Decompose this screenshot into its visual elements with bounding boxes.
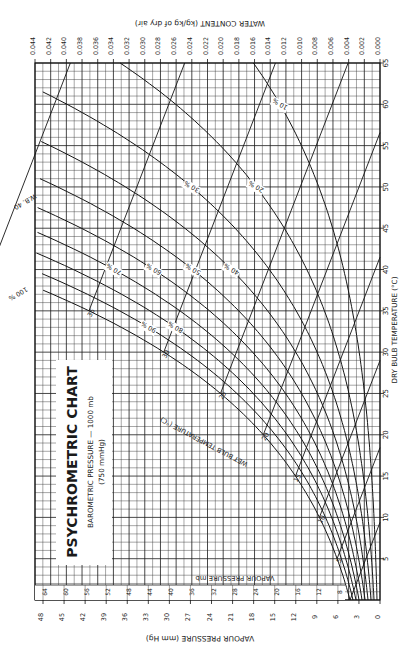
- water-content-tick-label: 0.028: [154, 37, 161, 55]
- water-content-axis-title: WATER CONTENT (kg/kg of dry air): [135, 19, 265, 28]
- rh-label: 40 %: [222, 262, 240, 277]
- water-content-tick-label: 0.004: [343, 37, 350, 55]
- dry-bulb-tick-label: 35: [382, 306, 390, 315]
- vapour-mmhg-tick-label: 36: [121, 613, 129, 621]
- water-content-tick-label: 0.006: [327, 37, 334, 55]
- vapour-mb-band-title: VAPOUR PRESSURE mb: [195, 574, 274, 582]
- vapour-mmhg-tick-label: 9: [311, 615, 319, 619]
- water-content-tick-label: 0.002: [358, 37, 365, 55]
- vapour-mb-tick-label: 16: [294, 588, 301, 596]
- vapour-mmhg-tick-label: 18: [248, 613, 256, 621]
- vapour-mb-tick-label: 28: [231, 588, 238, 596]
- water-content-tick-label: 0.024: [186, 37, 193, 55]
- vapour-mmhg-tick-label: 12: [290, 613, 298, 621]
- water-content-tick-label: 0.000: [374, 37, 381, 55]
- vapour-mb-tick-label: 48: [125, 588, 132, 596]
- vapour-mb-tick-label: 20: [273, 588, 280, 596]
- wet-bulb-line-20: [263, 133, 380, 435]
- dry-bulb-tick-label: 45: [382, 224, 390, 233]
- water-content-tick-label: 0.016: [249, 37, 256, 55]
- rh-label: 50 %: [184, 262, 202, 277]
- vapour-mb-tick-label: 40: [167, 588, 174, 596]
- dry-bulb-tick-label: 30: [382, 348, 390, 357]
- dry-bulb-tick-label: 55: [382, 141, 390, 150]
- dry-bulb-axis-title: DRY BULB TEMPERATURE (°C): [390, 276, 399, 383]
- vapour-mmhg-axis-title: VAPOUR PRESSURE (mm Hg): [146, 634, 254, 643]
- water-content-tick-label: 0.026: [170, 37, 177, 55]
- vapour-mb-tick-label: 64: [41, 588, 48, 596]
- vapour-mmhg-tick-label: 30: [163, 613, 171, 621]
- saturation-marker-label: 100 %: [7, 285, 29, 302]
- dry-bulb-tick-label: 25: [382, 389, 390, 398]
- vapour-mmhg-tick-label: 42: [79, 613, 87, 621]
- wet-bulb-label: 30: [160, 349, 171, 360]
- title-block: PSYCHROMETRIC CHART BAROMETRIC PRESSURE …: [56, 360, 112, 565]
- vapour-mmhg-tick-label: 3: [353, 615, 361, 619]
- dry-bulb-tick-label: 20: [382, 430, 390, 439]
- wet-bulb-axis-title: WET BULB TEMPERATURE (°C): [159, 415, 249, 468]
- dry-bulb-tick-label: 40: [382, 265, 390, 274]
- dry-bulb-tick-label: 5: [382, 556, 390, 560]
- chart-title: PSYCHROMETRIC CHART: [64, 366, 80, 558]
- rh-curve-20: [120, 63, 374, 600]
- dry-bulb-tick-label: 10: [382, 513, 390, 522]
- water-content-tick-label: 0.030: [139, 37, 146, 55]
- psychrometric-chart: 90 %80 %70 %60 %50 %40 %30 %20 %10 %5101…: [0, 0, 410, 645]
- wet-bulb-line-10: [319, 361, 380, 518]
- vapour-mmhg-tick-label: 33: [142, 613, 150, 621]
- dry-bulb-tick-label: 60: [382, 100, 390, 109]
- rh-label: 70 %: [105, 262, 123, 277]
- rh-label: 90 %: [140, 319, 158, 334]
- water-content-tick-label: 0.032: [123, 37, 130, 55]
- water-content-tick-label: 0.020: [217, 37, 224, 55]
- water-content-tick-label: 0.008: [311, 37, 318, 55]
- rh-label: 10 %: [271, 96, 289, 111]
- water-content-tick-label: 0.034: [107, 37, 114, 55]
- vapour-mb-tick-label: 12: [315, 588, 322, 596]
- water-content-tick-label: 0.010: [296, 37, 303, 55]
- chart-subtitle-mmhg: (750 mmHg): [97, 439, 106, 485]
- vapour-mmhg-tick-label: 24: [206, 613, 214, 621]
- vapour-mmhg-tick-label: 45: [58, 613, 66, 621]
- vapour-mmhg-tick-label: 15: [269, 613, 277, 621]
- rh-curve-10: [253, 63, 377, 600]
- vapour-mb-tick-label: 52: [104, 588, 111, 596]
- vapour-mb-tick-label: 56: [83, 588, 90, 596]
- wb-marker-label: W.B. 40: [12, 192, 37, 211]
- dry-bulb-tick-label: 65: [382, 59, 390, 68]
- water-content-tick-label: 0.018: [233, 37, 240, 55]
- chart-subtitle-pressure: BAROMETRIC PRESSURE — 1000 mb: [86, 396, 95, 528]
- vapour-mmhg-tick-label: 6: [332, 615, 340, 619]
- vapour-mmhg-tick-label: 21: [227, 613, 235, 621]
- water-content-tick-label: 0.040: [60, 37, 67, 55]
- water-content-tick-label: 0.014: [264, 37, 271, 55]
- water-content-tick-label: 0.012: [280, 37, 287, 55]
- wet-bulb-label: 10: [316, 514, 327, 525]
- vapour-mb-tick-label: 36: [188, 588, 195, 596]
- vapour-mb-tick-label: 24: [252, 588, 259, 596]
- dry-bulb-tick-label: 50: [382, 182, 390, 191]
- vapour-mb-tick-label: 8: [336, 590, 343, 594]
- vapour-mb-tick-label: 44: [146, 588, 153, 596]
- vapour-mmhg-tick-label: 48: [37, 613, 45, 621]
- vapour-mb-tick-label: 32: [210, 588, 217, 596]
- water-content-tick-label: 0.042: [45, 37, 52, 55]
- dry-bulb-tick-label: 15: [382, 472, 390, 481]
- vapour-mb-tick-label: 60: [62, 588, 69, 596]
- water-content-tick-label: 0.044: [29, 37, 36, 55]
- vapour-mmhg-tick-label: 0: [374, 615, 382, 619]
- wet-bulb-line-30: [164, 63, 276, 352]
- wet-bulb-label: 35: [86, 307, 97, 318]
- vapour-mmhg-tick-label: 27: [184, 613, 192, 621]
- vapour-mmhg-tick-label: 39: [100, 613, 108, 621]
- water-content-tick-label: 0.022: [202, 37, 209, 55]
- water-content-tick-label: 0.038: [76, 37, 83, 55]
- water-content-tick-label: 0.036: [92, 37, 99, 55]
